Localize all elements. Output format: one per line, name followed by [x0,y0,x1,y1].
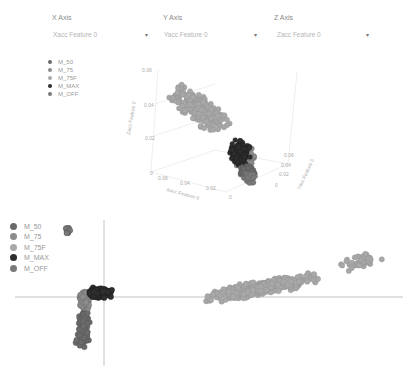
legend-marker-icon [10,244,17,251]
legend-marker-icon [10,254,17,261]
legend-label: M_75 [24,233,42,240]
legend-marker-icon [10,233,17,240]
legend-label: M_OFF [24,265,48,272]
legend-2d: M_50 M_75 M_75F M_MAX M_OFF [10,221,49,274]
legend-item[interactable]: M_50 [10,221,49,232]
legend-label: M_MAX [24,254,49,261]
legend-label: M_50 [24,223,42,230]
legend-item[interactable]: M_MAX [10,253,49,264]
legend-item[interactable]: M_OFF [10,263,49,274]
2d-points [64,225,385,350]
legend-marker-icon [10,265,17,272]
scatter-2d-plot[interactable] [0,0,416,375]
legend-marker-icon [10,223,17,230]
legend-item[interactable]: M_75F [10,242,49,253]
legend-label: M_75F [24,244,46,251]
legend-item[interactable]: M_75 [10,232,49,243]
